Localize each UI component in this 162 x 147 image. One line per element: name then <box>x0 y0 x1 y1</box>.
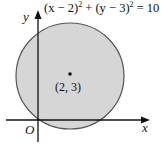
center-point <box>68 72 72 76</box>
x-axis-label: x <box>142 121 148 134</box>
equation-rhs: = 10 <box>134 1 160 15</box>
equation-term-y: + (y − 3) <box>82 1 129 15</box>
y-axis-arrow-icon <box>35 10 42 19</box>
circle-diagram: (x − 2)2 + (y − 3)2 = 10 y x O (2, 3) <box>0 0 162 147</box>
origin-label: O <box>25 123 34 136</box>
shaded-circle <box>16 23 124 129</box>
center-label: (2, 3) <box>55 81 81 93</box>
circle-equation: (x − 2)2 + (y − 3)2 = 10 <box>44 2 159 15</box>
y-axis-label: y <box>23 10 29 23</box>
equation-term-x: (x − 2) <box>44 1 78 15</box>
